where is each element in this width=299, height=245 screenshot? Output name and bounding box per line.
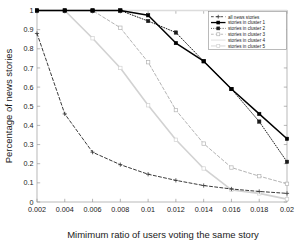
legend-label: stories in cluster 5 (228, 44, 265, 49)
legend-marker-icon (217, 33, 220, 36)
legend-marker-icon (217, 27, 220, 30)
legend-marker-icon (217, 44, 220, 47)
legend-label: stories in cluster 3 (228, 32, 265, 37)
y-tick-label: 0.8 (24, 44, 34, 53)
x-tick-label: 0.004 (56, 205, 74, 214)
legend-label: stories in cluster 4 (228, 38, 265, 43)
y-tick-label: 0.9 (24, 25, 34, 34)
y-tick-label: 0.6 (24, 83, 34, 92)
y-tick-label: 0.7 (24, 64, 34, 73)
x-tick-label: 0.018 (250, 205, 268, 214)
x-tick-label: 0.002 (28, 205, 46, 214)
x-axis-label: Mimimum ratio of users voting the same s… (67, 229, 259, 240)
series-all-news-stories (35, 31, 289, 195)
x-tick-label: 0.012 (167, 205, 185, 214)
line-chart: 00.10.20.30.40.50.60.70.80.91 0.0020.004… (0, 0, 299, 245)
legend-label: stories in cluster 1 (228, 20, 265, 25)
y-tick-label: 0.2 (24, 159, 34, 168)
y-axis-label: Percentage of news stories (3, 48, 14, 163)
legend-label: stories in cluster 2 (228, 26, 265, 31)
y-tick-label: 0.5 (24, 102, 34, 111)
x-tick-label: 0.016 (222, 205, 240, 214)
chart-legend: all news storiesstories in cluster 1stor… (209, 12, 287, 50)
x-tick-label: 0.008 (111, 205, 129, 214)
y-tick-label: 1 (30, 6, 34, 15)
y-tick-label: 0.1 (24, 178, 34, 187)
x-tick-label: 0.02 (280, 205, 294, 214)
y-tick-label: 0.4 (24, 121, 34, 130)
legend-label: all news stories (228, 15, 260, 20)
x-tick-label: 0.01 (141, 205, 155, 214)
x-tick-label: 0.014 (195, 205, 213, 214)
legend-marker-icon (217, 21, 220, 24)
x-tick-label: 0.006 (84, 205, 102, 214)
y-tick-label: 0.3 (24, 140, 34, 149)
chart-figure: 00.10.20.30.40.50.60.70.80.91 0.0020.004… (0, 0, 299, 245)
